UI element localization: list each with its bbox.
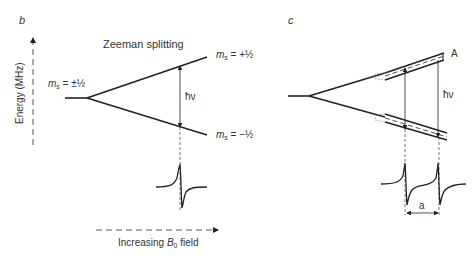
degenerate-label: ms = ±½ bbox=[48, 78, 85, 90]
epr-signal-doublet bbox=[381, 163, 466, 205]
lower-level bbox=[87, 98, 207, 135]
panel-c-letter: c bbox=[288, 14, 294, 26]
lower-level-label: ms = −½ bbox=[216, 129, 253, 141]
transition-label-b: ħν bbox=[185, 91, 196, 102]
hyperfine-label: A bbox=[451, 48, 458, 59]
epr-diagram bbox=[0, 0, 473, 256]
spacing-label: a bbox=[419, 200, 425, 211]
panel-b bbox=[33, 38, 218, 230]
panel-c bbox=[288, 53, 466, 215]
zeeman-title: Zeeman splitting bbox=[103, 38, 184, 50]
field-axis-label: Increasing B0 field bbox=[118, 237, 199, 249]
transition-label-c: ħν bbox=[443, 89, 454, 100]
energy-axis-label: Energy (MHz) bbox=[14, 62, 25, 124]
epr-signal-single bbox=[156, 165, 207, 208]
upper-level-label: ms = +½ bbox=[216, 49, 253, 61]
panel-b-letter: b bbox=[19, 14, 25, 26]
